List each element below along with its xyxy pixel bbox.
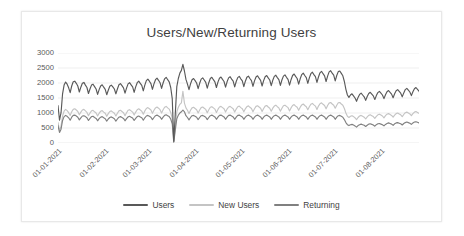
legend-item-new-users[interactable]: New Users <box>189 201 259 209</box>
chart-title: Users/New/Returning Users <box>22 25 441 40</box>
series-line-returning <box>58 110 419 142</box>
x-axis-tick-label: 01-05-2021 <box>214 147 246 179</box>
series-line-users <box>58 64 419 141</box>
legend-swatch <box>274 204 299 207</box>
y-axis-tick-label: 1500 <box>37 94 54 102</box>
x-axis-tick-label: 01-03-2021 <box>121 147 153 179</box>
y-axis-tick-label: 2500 <box>37 64 54 72</box>
legend-item-returning[interactable]: Returning <box>274 201 339 209</box>
y-axis: 050010001500200025003000 <box>22 53 56 143</box>
legend-label: Users <box>152 201 174 209</box>
x-axis-tick-label: 01-08-2021 <box>354 147 386 179</box>
legend-label: New Users <box>218 201 259 209</box>
y-axis-tick-label: 2000 <box>37 79 54 87</box>
legend-item-users[interactable]: Users <box>123 201 174 209</box>
x-axis-tick-label: 01-02-2021 <box>78 147 110 179</box>
x-axis-tick-label: 01-07-2021 <box>307 147 339 179</box>
series-lines <box>58 53 419 143</box>
x-axis-tick-label: 01-06-2021 <box>261 147 293 179</box>
x-axis-tick-label: 01-04-2021 <box>168 147 200 179</box>
legend-swatch <box>189 204 214 207</box>
chart-container: Users/New/Returning Users 05001000150020… <box>21 11 442 222</box>
plot-area <box>58 53 419 143</box>
legend-swatch <box>123 204 148 207</box>
x-axis: 01-01-202101-02-202101-03-202101-04-2021… <box>58 143 419 203</box>
legend-label: Returning <box>303 201 339 209</box>
y-axis-tick-label: 0 <box>50 139 54 147</box>
y-axis-tick-label: 3000 <box>37 49 54 57</box>
y-axis-tick-label: 1000 <box>37 109 54 117</box>
x-axis-tick-label: 01-01-2021 <box>31 147 63 179</box>
y-axis-tick-label: 500 <box>41 124 54 132</box>
chart-legend: UsersNew UsersReturning <box>22 201 441 209</box>
